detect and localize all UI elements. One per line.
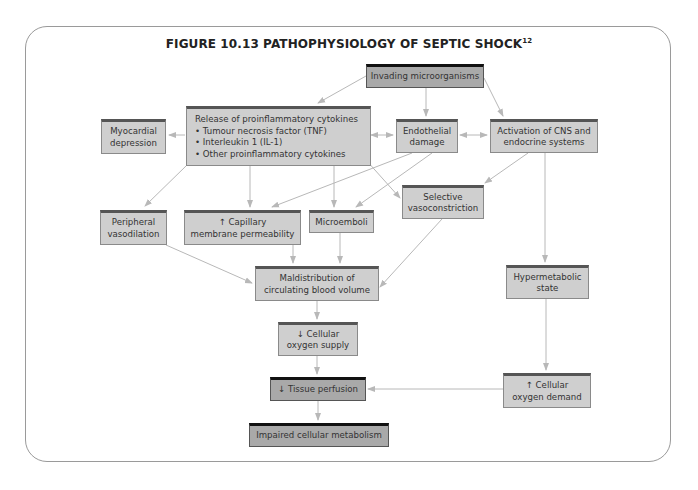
connector-arrows: [0, 0, 698, 490]
arrow-invading-release: [318, 76, 366, 103]
node-label: ↓ Cellular oxygen supply: [287, 329, 349, 352]
node-label: Myocardial depression: [110, 126, 157, 149]
node-selective-vasoconstriction: Selective vasoconstriction: [402, 185, 484, 219]
node-impaired-cellular-metabolism: Impaired cellular metabolism: [249, 423, 389, 447]
node-capillary-permeability: ↑ Capillary membrane permeability: [184, 210, 301, 245]
node-label: ↑ Capillary membrane permeability: [191, 217, 295, 240]
node-label: Maldistribution of circulating blood vol…: [264, 273, 370, 296]
node-microemboli: Microemboli: [309, 210, 374, 233]
node-peripheral-vasodilation: Peripheral vasodilation: [100, 210, 167, 245]
arrow-selective-maldistribution: [380, 219, 442, 287]
node-label: Selective vasoconstriction: [408, 192, 478, 215]
arrow-peripheral-maldistribution: [166, 245, 252, 283]
node-label: Release of proinflammatory cytokines • T…: [195, 114, 358, 160]
node-maldistribution-blood-volume: Maldistribution of circulating blood vol…: [255, 266, 379, 301]
node-label: Invading microorganisms: [371, 71, 479, 83]
arrow-release-peripheral: [145, 166, 186, 206]
node-label: Activation of CNS and endocrine systems: [497, 126, 591, 149]
node-cns-endocrine-activation: Activation of CNS and endocrine systems: [490, 119, 598, 153]
node-label: Hypermetabolic state: [513, 272, 581, 295]
node-myocardial-depression: Myocardial depression: [101, 119, 166, 154]
node-cellular-oxygen-demand: ↑ Cellular oxygen demand: [503, 373, 591, 408]
node-label: ↓ Tissue perfusion: [278, 384, 358, 396]
arrow-activation-selective: [485, 153, 528, 183]
node-label: Impaired cellular metabolism: [256, 430, 382, 442]
arrow-invading-activation: [484, 78, 503, 116]
node-label: ↑ Cellular oxygen demand: [512, 380, 581, 403]
node-cellular-oxygen-supply: ↓ Cellular oxygen supply: [278, 322, 358, 356]
node-endothelial-damage: Endothelial damage: [396, 119, 458, 153]
node-label: Microemboli: [315, 217, 367, 229]
node-label: Endothelial damage: [403, 126, 451, 149]
node-invading-microorganisms: Invading microorganisms: [366, 64, 484, 88]
node-release-cytokines: Release of proinflammatory cytokines • T…: [186, 106, 371, 166]
node-tissue-perfusion: ↓ Tissue perfusion: [270, 377, 366, 401]
node-hypermetabolic-state: Hypermetabolic state: [506, 265, 589, 299]
node-label: Peripheral vasodilation: [107, 217, 159, 240]
